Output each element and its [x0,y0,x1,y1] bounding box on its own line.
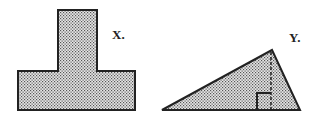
diagram-canvas: X. Y. [0,0,320,121]
figure-y-label: Y. [289,30,300,45]
figure-x-label: X. [112,27,125,42]
figure-x-t-shape [18,10,135,110]
figure-y-triangle [162,50,300,110]
